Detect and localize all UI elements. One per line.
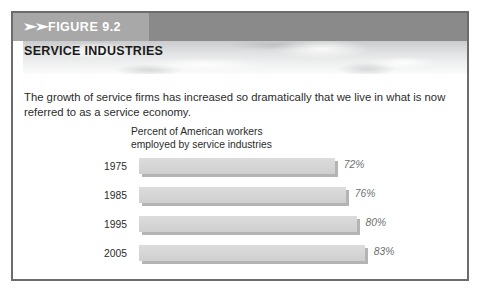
chart-title: Percent of American workers employed by … (131, 126, 351, 151)
bar-shape (139, 216, 357, 232)
chart-title-line-1: Percent of American workers (131, 126, 263, 137)
bar-track: 80% (139, 215, 467, 240)
figure-number-label: FIGURE 9.2 (48, 20, 121, 34)
bar-shape (139, 158, 335, 174)
bar-category-label: 2005 (79, 248, 127, 259)
bar-row: 1995 80% (13, 215, 467, 244)
figure-container: ➤➤ FIGURE 9.2 SERVICE INDUSTRIES The gro… (0, 0, 481, 292)
bar-value-label: 83% (374, 246, 395, 257)
figure-body: The growth of service firms has increase… (13, 74, 467, 279)
bar-list: 1975 72% 1985 76% 19 (13, 157, 467, 273)
bar-category-label: 1995 (79, 219, 127, 230)
bar-row: 2005 83% (13, 244, 467, 273)
intro-paragraph: The growth of service firms has increase… (24, 90, 448, 120)
bar-shape (139, 245, 365, 261)
chart-title-line-2: employed by service industries (131, 139, 272, 150)
section-title: SERVICE INDUSTRIES (24, 44, 163, 58)
bar-track: 72% (139, 157, 467, 182)
bar-category-label: 1985 (79, 190, 127, 201)
bar-shape (139, 187, 346, 203)
figure-tag: ➤➤ FIGURE 9.2 (13, 13, 149, 41)
double-chevron-right-icon: ➤➤ (23, 22, 47, 32)
bar-track: 76% (139, 186, 467, 211)
bar-value-label: 76% (355, 188, 376, 199)
bar-row: 1975 72% (13, 157, 467, 186)
bar-value-label: 80% (366, 217, 387, 228)
bar-row: 1985 76% (13, 186, 467, 215)
texture-left-gutter (13, 41, 23, 74)
bar-value-label: 72% (344, 159, 365, 170)
figure-frame: ➤➤ FIGURE 9.2 SERVICE INDUSTRIES The gro… (11, 11, 469, 281)
bar-category-label: 1975 (79, 161, 127, 172)
bar-track: 83% (139, 244, 467, 269)
